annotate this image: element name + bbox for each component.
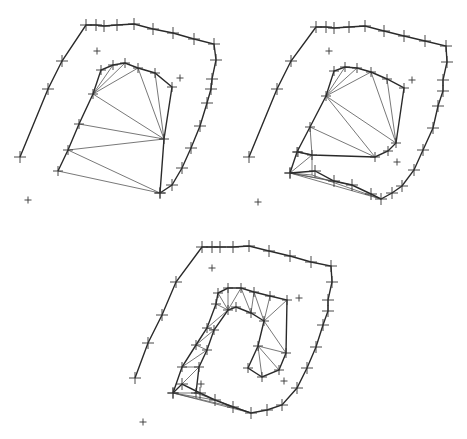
point-marker-icon [170,276,182,288]
triangulation-edge [258,346,279,370]
point-marker-icon [176,162,188,174]
triangulation-edge [326,96,375,157]
point-marker-icon [147,23,159,35]
point-marker-icon [209,265,216,272]
point-marker-icon [417,144,429,156]
point-marker-icon [328,22,340,34]
point-marker-icon [375,193,387,205]
point-marker-icon [74,119,84,129]
point-marker-icon [129,372,141,384]
point-marker-icon [285,168,295,178]
point-marker-icon [441,56,453,68]
point-marker-icon [201,97,213,109]
point-marker-icon [177,75,184,82]
point-marker-icon [293,147,303,157]
triangulation-edge [79,124,164,139]
point-marker-icon [210,54,222,66]
point-marker-icon [94,48,101,55]
point-marker-icon [370,152,380,162]
point-marker-icon [437,74,449,86]
point-marker-icon [194,120,206,132]
point-marker-icon [166,179,178,191]
point-marker-icon [322,305,334,317]
point-marker-icon [246,308,256,318]
point-marker-icon [111,19,123,31]
point-marker-icon [284,250,296,262]
point-marker-icon [53,166,63,176]
point-marker-icon [90,19,102,31]
triangulation-edge [93,94,164,139]
point-marker-icon [223,283,233,293]
panel-1 [14,18,222,204]
point-marker-icon [211,299,221,309]
point-marker-icon [399,83,409,93]
triangulation-edge [387,79,396,143]
point-marker-icon [96,65,106,75]
triangulation-edge [196,345,207,350]
point-marker-icon [56,55,68,67]
point-marker-icon [440,40,452,52]
triangulation-edge [173,393,251,413]
point-marker-icon [227,401,239,413]
point-marker-icon [408,164,420,176]
point-marker-icon [140,419,147,426]
triangulation-edge [254,292,264,321]
point-marker-icon [317,319,329,331]
point-marker-icon [188,33,200,45]
triangulation-edge [138,68,164,139]
point-marker-icon [329,66,339,76]
point-marker-icon [378,25,390,37]
point-marker-icon [236,283,246,293]
panel-2 [243,20,453,206]
point-marker-icon [98,20,110,32]
point-marker-icon [409,77,416,84]
point-marker-icon [326,276,338,288]
point-marker-icon [257,372,267,382]
point-marker-icon [177,362,187,372]
point-marker-icon [365,188,377,200]
inner-boundary-curve [173,288,287,393]
point-marker-icon [419,35,431,47]
triangulation-edge [68,139,164,150]
point-marker-icon [366,67,376,77]
point-marker-icon [243,151,255,163]
triangulation-edge [264,296,270,321]
point-marker-icon [325,260,337,272]
point-marker-icon [108,60,118,70]
point-marker-icon [206,73,218,85]
point-marker-icon [326,48,333,55]
point-marker-icon [281,348,291,358]
point-marker-icon [167,27,179,39]
triangulation-edge [326,96,396,143]
triangulation-edge [264,300,287,321]
point-marker-icon [42,83,54,95]
point-marker-icon [285,55,297,67]
point-marker-icon [310,341,322,353]
triangulation-figure [0,0,467,439]
point-marker-icon [261,404,273,416]
point-marker-icon [205,83,217,95]
point-marker-icon [208,38,220,50]
point-marker-icon [320,21,332,33]
point-marker-icon [281,378,288,385]
triangulation-edge [310,127,375,157]
point-marker-icon [214,241,226,253]
point-marker-icon [296,295,303,302]
point-marker-icon [305,122,315,132]
point-marker-icon [386,187,398,199]
panel-3 [129,240,338,426]
point-marker-icon [14,151,26,163]
point-marker-icon [245,407,257,419]
triangulation-edge [258,346,262,377]
point-marker-icon [243,240,255,252]
point-marker-icon [263,245,275,257]
point-marker-icon [271,83,283,95]
point-marker-icon [307,150,317,160]
point-marker-icon [382,74,392,84]
point-marker-icon [340,62,350,72]
point-marker-icon [128,18,140,30]
point-marker-icon [398,30,410,42]
point-marker-icon [63,145,73,155]
point-marker-icon [133,63,143,73]
point-marker-icon [209,394,221,406]
